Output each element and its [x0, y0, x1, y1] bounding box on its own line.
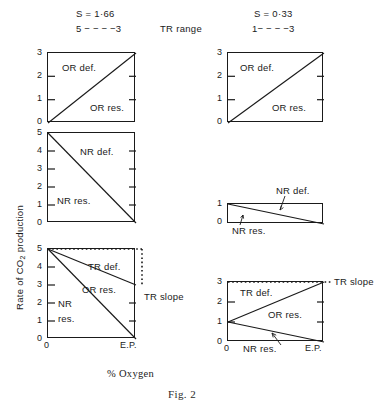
nr-left-ytick-4: 4 [28, 146, 42, 155]
combined-left-ytick-1: 1 [28, 316, 42, 325]
nr-left-ytick-3: 3 [28, 164, 42, 173]
combined-right-label-nr-res: NR res. [243, 344, 277, 354]
combined-left-label-or-res: OR res. [82, 285, 116, 295]
combined-left-xtick-0: 0 [44, 341, 49, 350]
combined-left-label-tr-def: TR def. [88, 262, 121, 272]
nr-right-label-nr-res: NR res. [232, 226, 266, 236]
right-column-range-label: 1− − − −3 [252, 24, 294, 34]
nr-left-ytick-2: 2 [28, 182, 42, 191]
or-right-ytick-3: 3 [208, 48, 222, 57]
nr-right-label-nr-def: NR def. [276, 186, 310, 196]
or-right-label-or-def: OR def. [240, 63, 274, 73]
combined-right-ytick-1: 1 [208, 317, 222, 326]
y-axis-title-prefix: Rate of CO [14, 259, 25, 310]
combined-left-ytick-2: 2 [28, 298, 42, 307]
y-axis-title-sub: 2 [19, 255, 26, 259]
nr-left-ytick-0: 0 [28, 218, 42, 227]
or-left-ytick-2: 2 [28, 71, 42, 80]
combined-right-ytick-3: 3 [208, 277, 222, 286]
or-left-label-or-def: OR def. [62, 63, 96, 73]
nr-left-ytick-1: 1 [28, 200, 42, 209]
or-left-label-or-res: OR res. [90, 103, 124, 113]
figure-root: S = 1·66 5 − − − −3 TR range S = 0·33 1−… [0, 0, 380, 411]
panel-nr-right [227, 203, 323, 223]
nr-right-ytick-1: 1 [208, 199, 222, 208]
or-right-ytick-2: 2 [208, 71, 222, 80]
figure-caption: Fig. 2 [168, 388, 196, 400]
tr-range-label: TR range [160, 24, 202, 34]
y-axis-title-suffix: production [14, 205, 25, 255]
combined-left-ytick-5: 5 [28, 244, 42, 253]
combined-left-label-tr-slope: TR slope [144, 292, 184, 302]
combined-right-label-or-res: OR res. [268, 310, 302, 320]
combined-left-label-res: res. [58, 314, 75, 324]
combined-left-ytick-3: 3 [28, 280, 42, 289]
or-right-ytick-1: 1 [208, 94, 222, 103]
combined-right-ytick-2: 2 [208, 297, 222, 306]
or-left-ytick-0: 0 [28, 117, 42, 126]
left-column-range-label: 5 − − − −3 [76, 24, 121, 34]
nr-left-label-nr-res: NR res. [57, 196, 91, 206]
or-right-label-or-res: OR res. [272, 103, 306, 113]
right-column-s-label: S = 0·33 [254, 9, 293, 19]
nr-left-label-nr-def: NR def. [80, 147, 114, 157]
nr-left-ytick-5: 5 [28, 128, 42, 137]
left-column-s-label: S = 1·66 [76, 9, 115, 19]
or-left-ytick-1: 1 [28, 94, 42, 103]
y-axis-title: Rate of CO2 production [14, 205, 25, 310]
or-left-ytick-3: 3 [28, 48, 42, 57]
combined-right-nr-res-line [228, 322, 324, 342]
x-axis-title: % Oxygen [107, 368, 154, 379]
combined-left-ytick-4: 4 [28, 262, 42, 271]
combined-right-xtick-ep: E.P. [305, 344, 322, 353]
nr-right-ytick-0: 0 [208, 217, 222, 226]
combined-right-xtick-0: 0 [224, 344, 229, 353]
combined-right-label-tr-slope: TR slope [334, 277, 374, 287]
combined-right-label-tr-def: TR def. [240, 288, 273, 298]
combined-left-ytick-0: 0 [28, 334, 42, 343]
or-right-ytick-0: 0 [208, 117, 222, 126]
combined-left-xtick-ep: E.P. [120, 341, 137, 350]
combined-right-ytick-0: 0 [208, 337, 222, 346]
combined-left-label-nr: NR [58, 299, 72, 309]
nr-right-line [228, 204, 324, 224]
